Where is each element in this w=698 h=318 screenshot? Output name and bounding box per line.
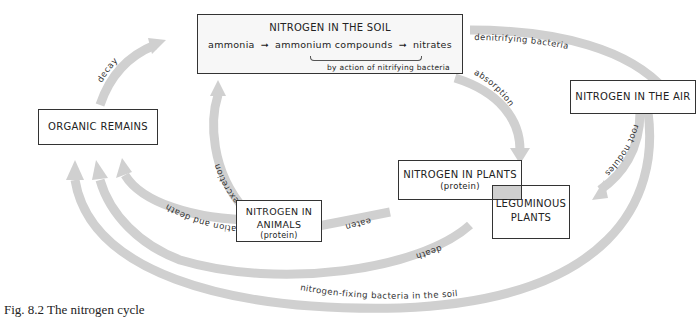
chain-ammonia: ammonia: [208, 39, 255, 50]
chain-nitrates: nitrates: [413, 39, 452, 50]
soil-chain: ammonia ➞ ammonium compounds ➞ nitrates: [198, 39, 462, 50]
brace-icon: [310, 56, 422, 61]
node-animals: NITROGEN IN ANIMALS (protein): [236, 200, 322, 242]
node-air: NITROGEN IN THE AIR: [570, 80, 696, 114]
node-organic-remains: ORGANIC REMAINS: [38, 109, 158, 145]
soil-note: by action of nitrifying bacteria: [327, 63, 450, 72]
svg-text:nitrogen-fixing bacteria in th: nitrogen-fixing bacteria in the soil: [300, 282, 459, 301]
arrow-right-icon: ➞: [399, 39, 407, 50]
chain-ammonium: ammonium compounds: [275, 39, 393, 50]
soil-title: NITROGEN IN THE SOIL: [198, 22, 462, 33]
arrow-right-icon: ➞: [261, 39, 269, 50]
node-soil: NITROGEN IN THE SOIL ammonia ➞ ammonium …: [197, 14, 463, 74]
overlap-shade: [493, 186, 521, 199]
label-nitrogen-fixing: nitrogen-fixing bacteria in the soil: [300, 282, 459, 301]
figure-caption: Fig. 8.2 The nitrogen cycle: [4, 302, 145, 318]
